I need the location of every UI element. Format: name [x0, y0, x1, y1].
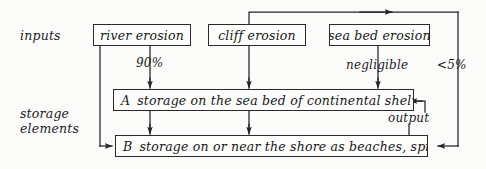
- row-label-storage-elements: storage elements: [20, 107, 92, 137]
- node-river-erosion-label: river erosion: [100, 28, 184, 43]
- flow-label-under-five-percent: <5%: [437, 58, 467, 72]
- row-label-storage-line2: elements: [20, 121, 79, 136]
- diagram-canvas: inputs storage elements river erosion cl…: [0, 0, 486, 169]
- node-cliff-erosion-label: cliff erosion: [218, 28, 296, 43]
- node-storage-a-label: storage on the sea bed of continental sh…: [137, 93, 414, 108]
- row-label-storage-line1: storage: [20, 106, 69, 121]
- node-storage-b-prefix: B: [123, 139, 132, 154]
- node-river-erosion[interactable]: river erosion: [93, 24, 191, 46]
- node-cliff-erosion[interactable]: cliff erosion: [208, 24, 306, 46]
- row-label-inputs: inputs: [20, 28, 61, 43]
- node-sea-bed-erosion-label: sea bed erosion: [329, 28, 430, 43]
- flow-label-output: output: [388, 111, 429, 125]
- node-sea-bed-erosion[interactable]: sea bed erosion: [329, 24, 430, 46]
- node-storage-a[interactable]: A storage on the sea bed of continental …: [113, 89, 414, 111]
- node-storage-b-label: storage on or near the shore as beaches,…: [139, 139, 428, 154]
- connector-cliff-top-return: [249, 12, 458, 24]
- node-storage-a-prefix: A: [121, 93, 130, 108]
- flow-label-river-percent: 90%: [136, 56, 163, 70]
- node-storage-b[interactable]: B storage on or near the shore as beache…: [115, 135, 428, 157]
- flow-label-negligible: negligible: [346, 58, 408, 72]
